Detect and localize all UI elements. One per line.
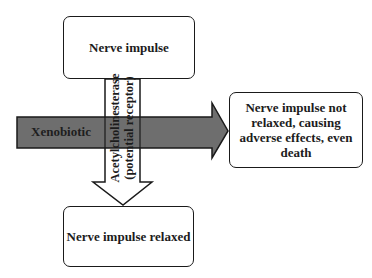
acetylcholinesterase-label-line1: Acetylcholinesterase (108, 74, 122, 183)
xenobiotic-label: Xenobiotic (31, 124, 91, 140)
acetylcholinesterase-label: Acetylcholinesterase (potential receptor… (108, 74, 136, 183)
acetylcholinesterase-label-line2: (potential receptor) (122, 74, 136, 183)
